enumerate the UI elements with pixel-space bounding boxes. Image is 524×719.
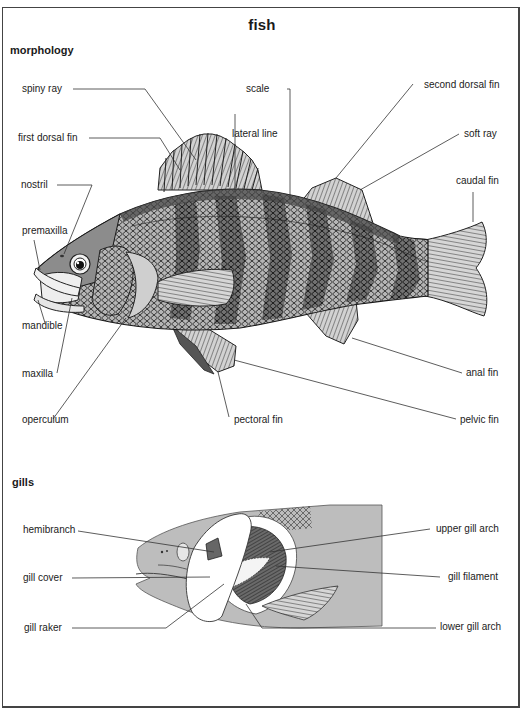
- label-lateral-line: lateral line: [232, 128, 278, 139]
- label-lower-gill-arch: lower gill arch: [440, 621, 501, 632]
- label-spiny-ray: spiny ray: [22, 83, 62, 94]
- label-operculum: operculum: [22, 414, 69, 425]
- label-gill-raker: gill raker: [24, 622, 62, 633]
- label-gill-cover: gill cover: [23, 572, 62, 583]
- label-anal-fin: anal fin: [466, 367, 498, 378]
- label-caudal-fin: caudal fin: [456, 175, 499, 186]
- label-first-dorsal-fin: first dorsal fin: [18, 132, 77, 143]
- label-gill-filament: gill filament: [448, 571, 498, 582]
- label-pelvic-fin: pelvic fin: [460, 414, 499, 425]
- diagram-artwork: [0, 0, 524, 719]
- fish-illustration: [34, 133, 487, 374]
- label-pectoral-fin: pectoral fin: [234, 414, 283, 425]
- label-premaxilla: premaxilla: [22, 225, 68, 236]
- gill-illustration: [136, 505, 382, 628]
- label-mandible: mandible: [22, 320, 63, 331]
- label-upper-gill-arch: upper gill arch: [436, 523, 499, 534]
- label-soft-ray: soft ray: [464, 128, 497, 139]
- label-hemibranch: hemibranch: [23, 524, 75, 535]
- label-nostril: nostril: [21, 179, 48, 190]
- label-scale: scale: [246, 83, 269, 94]
- label-maxilla: maxilla: [22, 368, 53, 379]
- label-second-dorsal-fin: second dorsal fin: [424, 79, 500, 90]
